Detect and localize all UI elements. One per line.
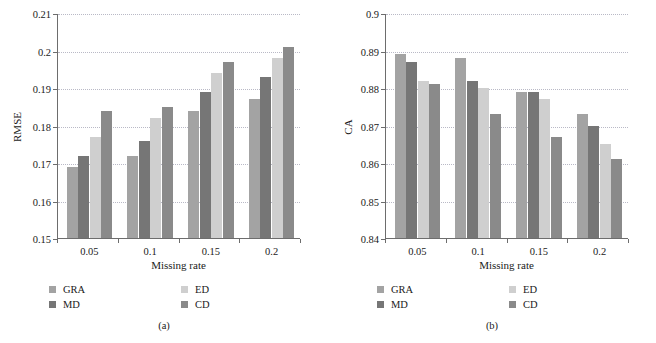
legend-item-md: MD	[49, 299, 80, 310]
x-axis-title-b: Missing rate	[385, 259, 628, 271]
legend-item-ed: ED	[181, 284, 209, 295]
y-axis-title-b: CA	[342, 119, 354, 134]
bar-cd	[101, 111, 112, 239]
legend-swatch-gra	[49, 286, 56, 293]
legend-swatch-cd	[181, 301, 188, 308]
bar-ed	[478, 88, 489, 238]
y-tick-mark	[53, 164, 57, 165]
y-tick-label: 0.86	[361, 159, 379, 170]
x-axis-title-a: Missing rate	[57, 259, 300, 271]
legend-item-gra: GRA	[377, 284, 413, 295]
y-tick-label: 0.88	[361, 84, 379, 95]
bar-md	[467, 81, 478, 239]
bar-gra	[516, 92, 527, 238]
legend-label-md: MD	[63, 299, 80, 310]
y-tick-label: 0.17	[33, 159, 51, 170]
x-tick-label: 0.2	[265, 246, 278, 257]
legend-swatch-ed	[509, 286, 516, 293]
y-tick-mark	[53, 14, 57, 15]
bar-md	[200, 92, 211, 238]
panel-caption-b: (b)	[328, 320, 656, 331]
y-tick-mark	[381, 127, 385, 128]
x-tick-mark	[385, 239, 386, 243]
x-tick-mark	[507, 239, 508, 243]
bar-ed	[211, 73, 222, 238]
bar-group	[188, 14, 234, 238]
bar-cd	[223, 62, 234, 238]
bar-ed	[90, 137, 101, 238]
y-tick-label: 0.85	[361, 196, 379, 207]
legend-label-cd: CD	[523, 299, 538, 310]
bar-gra	[188, 111, 199, 239]
y-tick-label: 0.21	[33, 9, 51, 20]
legend-swatch-ed	[181, 286, 188, 293]
figure-root: RMSE 0.150.160.170.180.190.20.210.050.10…	[0, 0, 656, 343]
x-tick-mark	[57, 239, 58, 243]
bar-cd	[162, 107, 173, 238]
y-tick-label: 0.16	[33, 196, 51, 207]
bar-group	[577, 14, 623, 238]
legend-swatch-cd	[509, 301, 516, 308]
bar-group	[249, 14, 295, 238]
x-tick-label: 0.1	[472, 246, 485, 257]
y-tick-label: 0.84	[361, 234, 379, 245]
x-tick-mark	[239, 239, 240, 243]
bar-gra	[67, 167, 78, 238]
bar-md	[528, 92, 539, 238]
x-tick-mark	[567, 239, 568, 243]
y-tick-mark	[381, 14, 385, 15]
x-tick-label: 0.15	[202, 246, 220, 257]
legend-a: GRA MD ED CD	[0, 284, 328, 318]
y-tick-label: 0.15	[33, 234, 51, 245]
plot-area-a: 0.150.160.170.180.190.20.210.050.10.150.…	[57, 14, 300, 239]
legend-item-gra: GRA	[49, 284, 85, 295]
plot-area-b: 0.840.850.860.870.880.890.90.050.10.150.…	[385, 14, 628, 239]
x-tick-label: 0.05	[80, 246, 98, 257]
y-tick-label: 0.2	[38, 46, 51, 57]
bar-md	[260, 77, 271, 238]
bar-md	[139, 141, 150, 239]
x-tick-mark	[118, 239, 119, 243]
bar-ed	[539, 99, 550, 238]
bar-ed	[418, 81, 429, 239]
bar-gra	[577, 114, 588, 238]
panel-b: CA 0.840.850.860.870.880.890.90.050.10.1…	[328, 0, 656, 343]
legend-label-cd: CD	[195, 299, 210, 310]
y-tick-label: 0.18	[33, 121, 51, 132]
x-tick-label: 0.15	[530, 246, 548, 257]
x-tick-label: 0.2	[593, 246, 606, 257]
y-tick-mark	[53, 89, 57, 90]
y-tick-mark	[381, 202, 385, 203]
x-tick-mark	[179, 239, 180, 243]
bar-ed	[150, 118, 161, 238]
bar-group	[127, 14, 173, 238]
x-tick-mark	[628, 239, 629, 243]
legend-item-cd: CD	[509, 299, 538, 310]
bar-group	[395, 14, 441, 238]
legend-item-cd: CD	[181, 299, 210, 310]
bar-gra	[395, 54, 406, 238]
legend-label-gra: GRA	[63, 284, 85, 295]
legend-label-ed: ED	[523, 284, 537, 295]
bar-cd	[429, 84, 440, 238]
bar-gra	[455, 58, 466, 238]
bar-group	[516, 14, 562, 238]
legend-item-md: MD	[377, 299, 408, 310]
legend-b: GRA MD ED CD	[328, 284, 656, 318]
bar-ed	[272, 58, 283, 238]
y-tick-mark	[53, 52, 57, 53]
x-tick-label: 0.05	[408, 246, 426, 257]
legend-swatch-md	[49, 301, 56, 308]
legend-swatch-gra	[377, 286, 384, 293]
bar-cd	[611, 159, 622, 238]
y-tick-mark	[381, 89, 385, 90]
bar-md	[78, 156, 89, 239]
panel-a: RMSE 0.150.160.170.180.190.20.210.050.10…	[0, 0, 328, 343]
y-tick-mark	[381, 52, 385, 53]
x-tick-mark	[446, 239, 447, 243]
panel-caption-a: (a)	[0, 320, 328, 331]
bar-gra	[127, 156, 138, 239]
y-tick-label: 0.87	[361, 121, 379, 132]
bar-gra	[249, 99, 260, 238]
bar-group	[455, 14, 501, 238]
